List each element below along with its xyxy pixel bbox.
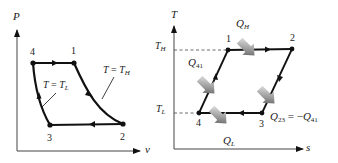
pv-process-3-4 — [33, 63, 50, 125]
th-tick-label: TH — [155, 41, 166, 53]
pv-point-2-label: 2 — [120, 132, 125, 142]
q23-rhs-sub: 41 — [311, 116, 318, 124]
isotherm-high-sub: H — [125, 69, 130, 77]
t-axis-label: T — [171, 9, 177, 20]
ts-process-2-3 — [262, 49, 292, 113]
isotherm-low-label: T = TL — [43, 80, 69, 92]
ts-point-1 — [226, 48, 231, 53]
pv-point-3-label: 3 — [47, 133, 52, 143]
isotherm-low-sub: L — [65, 84, 69, 92]
pv-point-1-label: 1 — [71, 46, 76, 56]
qh-main: Q — [236, 17, 244, 29]
ts-point-1-label: 1 — [226, 34, 231, 44]
leader-line — [42, 93, 56, 107]
ql-label: QL — [223, 135, 235, 148]
q41-label: Q41 — [188, 57, 203, 70]
ts-point-3-label: 3 — [259, 119, 264, 129]
pv-point-3 — [47, 122, 52, 127]
pv-point-4-label: 4 — [30, 47, 35, 57]
th-sub: H — [161, 45, 166, 53]
tl-sub: L — [162, 108, 166, 116]
ts-process-1-2 — [228, 49, 292, 50]
pv-point-2 — [120, 121, 125, 126]
q41-sub: 41 — [196, 62, 203, 70]
ts-point-4-label: 4 — [196, 118, 201, 128]
qh-sub: H — [244, 23, 249, 31]
arrow-head-icon — [89, 121, 95, 128]
isotherm-high-eq: = — [109, 64, 120, 75]
heat-arrow-ql-icon — [206, 103, 232, 129]
arrow-head-icon — [265, 47, 271, 53]
q23-equation-label: Q23 = −Q41 — [270, 111, 318, 124]
ts-diagram — [174, 26, 303, 149]
leader-line — [102, 77, 114, 99]
ts-point-3 — [260, 111, 265, 116]
ts-point-2-label: 2 — [290, 33, 295, 43]
q23-rhs-main: Q — [303, 110, 311, 122]
ql-sub: L — [231, 140, 235, 148]
ts-point-4 — [197, 111, 202, 116]
ql-main: Q — [223, 134, 231, 146]
diagram-canvas: P v 4 1 2 3 T = TH T = TL T s TH TL 1 2 … — [0, 0, 338, 163]
isotherm-high-label: T = TH — [103, 65, 130, 77]
arrow-head-icon — [238, 110, 244, 116]
qh-label: QH — [236, 18, 249, 31]
q23-main: Q — [270, 110, 278, 122]
q23-sub: 23 — [278, 116, 285, 124]
q41-main: Q — [188, 56, 196, 68]
p-axis-label: P — [13, 11, 20, 22]
pv-point-4 — [30, 60, 35, 65]
q23-eq: = − — [285, 110, 303, 122]
pv-point-1 — [71, 60, 76, 65]
arrow-head-icon — [52, 60, 58, 66]
ts-point-2 — [290, 47, 295, 52]
s-axis-label: s — [306, 142, 310, 153]
v-axis-label: v — [145, 144, 150, 155]
tl-tick-label: TL — [156, 104, 165, 116]
pv-process-2-3 — [50, 124, 123, 125]
heat-arrow-qh-icon — [234, 35, 260, 61]
heat-arrow-q23-icon — [254, 83, 280, 109]
isotherm-low-eq: = — [49, 79, 60, 90]
